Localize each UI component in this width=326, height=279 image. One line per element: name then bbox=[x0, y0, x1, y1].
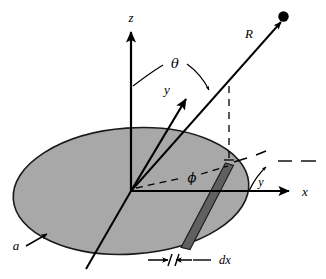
disk-radius-label: a bbox=[13, 238, 20, 253]
R-label: R bbox=[244, 26, 253, 41]
theta-label: θ bbox=[171, 56, 179, 71]
disk-radius-callout: a bbox=[13, 234, 47, 253]
x-axis-label: x bbox=[301, 184, 308, 199]
field-point-dot bbox=[278, 11, 288, 21]
theta-arc-left bbox=[133, 65, 163, 86]
z-axis-label: z bbox=[127, 10, 133, 25]
figure-canvas: y z x R θ ϕ bbox=[0, 0, 326, 279]
y-axis-label: y bbox=[162, 82, 170, 97]
theta-arc-right bbox=[187, 64, 209, 90]
theta-angle: θ bbox=[133, 56, 209, 90]
phi-label: ϕ bbox=[188, 170, 197, 185]
gamma-label: y bbox=[257, 175, 264, 189]
dx-label: dx bbox=[219, 253, 231, 267]
a-leader-arrow bbox=[26, 234, 47, 246]
dx-tick-left bbox=[168, 254, 172, 266]
disk-geometry-figure: y z x R θ ϕ bbox=[0, 0, 326, 279]
gamma-ref-dash-b bbox=[256, 151, 266, 155]
dx-callout: dx bbox=[148, 253, 231, 267]
